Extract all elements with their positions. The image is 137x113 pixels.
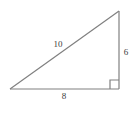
horizontal-leg-label: 8 [57,92,71,101]
right-angle-marker-icon [110,80,119,89]
hypotenuse-label: 10 [50,40,66,49]
right-triangle-figure: 10 6 8 [0,0,137,113]
hypotenuse-line [10,11,119,89]
vertical-leg-label: 6 [120,48,132,57]
